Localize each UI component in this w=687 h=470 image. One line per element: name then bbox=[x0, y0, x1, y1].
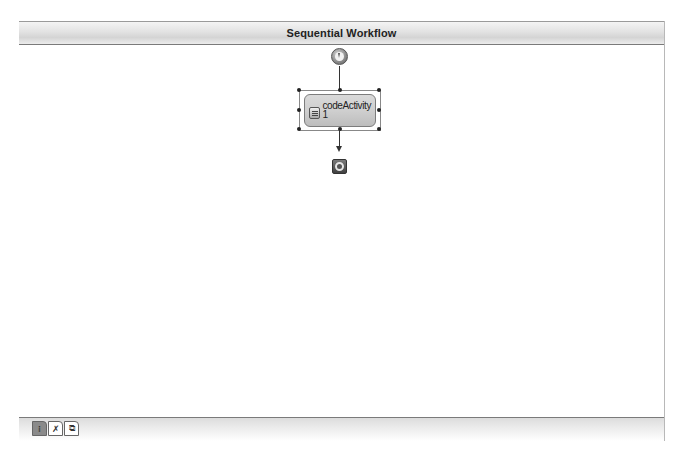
tab-workflow-view[interactable]: ⁝ bbox=[32, 421, 47, 436]
workflow-view-icon: ⁝ bbox=[38, 424, 41, 434]
code-activity-icon bbox=[309, 107, 320, 119]
resize-handle[interactable] bbox=[377, 108, 381, 112]
workflow-end-icon bbox=[332, 159, 347, 174]
resize-handle[interactable] bbox=[297, 127, 301, 131]
cancel-handler-icon: ✗ bbox=[52, 424, 60, 434]
designer-header: Sequential Workflow bbox=[19, 21, 664, 45]
activity-label-line1: codeActivity bbox=[322, 100, 371, 111]
view-tabs: ⁝ ✗ ⧉ bbox=[32, 421, 80, 436]
resize-handle[interactable] bbox=[297, 108, 301, 112]
designer-title: Sequential Workflow bbox=[287, 27, 397, 39]
resize-handle[interactable] bbox=[297, 88, 301, 92]
activity-label: codeActivity 1 bbox=[322, 101, 371, 119]
tab-fault-handlers-view[interactable]: ⧉ bbox=[64, 421, 79, 436]
designer-footer: ⁝ ✗ ⧉ bbox=[19, 417, 664, 441]
fault-handler-icon: ⧉ bbox=[69, 423, 75, 434]
resize-handle[interactable] bbox=[377, 127, 381, 131]
resize-handle[interactable] bbox=[377, 88, 381, 92]
code-activity-shape[interactable]: codeActivity 1 bbox=[304, 94, 376, 127]
workflow-canvas[interactable]: codeActivity 1 bbox=[19, 45, 664, 417]
resize-handle[interactable] bbox=[338, 88, 342, 92]
workflow-designer: Sequential Workflow codeActivity 1 bbox=[19, 21, 665, 441]
activity-label-line2: 1 bbox=[322, 109, 327, 120]
connector-line bbox=[339, 66, 340, 90]
tab-cancel-handlers-view[interactable]: ✗ bbox=[48, 421, 63, 436]
workflow-start-icon bbox=[331, 48, 348, 65]
connector-line bbox=[339, 131, 340, 147]
arrow-down-icon bbox=[336, 146, 342, 152]
